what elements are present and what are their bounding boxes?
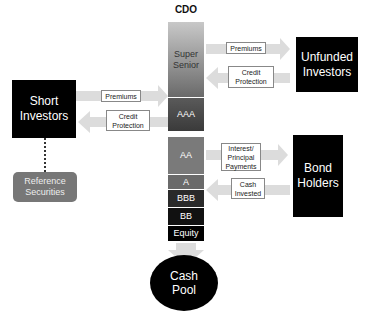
unfunded-premiums-label: Premiums	[226, 42, 266, 54]
reference-securities-label: Reference Securities	[24, 176, 66, 198]
label-text: Credit Protection	[112, 112, 144, 130]
bond-interest-payments-label: Interest/ Principal Payments	[221, 143, 261, 171]
cash-pool-label: Cash Pool	[170, 269, 198, 297]
label-text: Credit Protection	[235, 68, 267, 86]
short-credit-protection-label: Credit Protection	[106, 110, 150, 131]
short-premiums-label: Premiums	[101, 90, 141, 102]
bond-cash-invested-label: Cash Invested	[231, 178, 265, 199]
label-text: Premiums	[230, 44, 262, 53]
short-investors-label: Short Investors	[20, 94, 69, 124]
short-investors-box: Short Investors	[12, 80, 76, 138]
cash-pool-circle: Cash Pool	[150, 255, 218, 311]
reference-securities-box: Reference Securities	[13, 172, 77, 202]
unfunded-investors-box: Unfunded Investors	[296, 37, 358, 92]
label-text: Premiums	[105, 92, 137, 101]
bond-holders-label: Bond Holders	[297, 161, 338, 191]
bond-holders-box: Bond Holders	[293, 135, 343, 217]
dotted-connector	[44, 138, 46, 172]
label-text: Cash Invested	[235, 180, 261, 198]
label-text: Interest/ Principal Payments	[225, 144, 256, 171]
unfunded-investors-label: Unfunded Investors	[301, 50, 353, 80]
unfunded-credit-protection-label: Credit Protection	[228, 66, 274, 88]
